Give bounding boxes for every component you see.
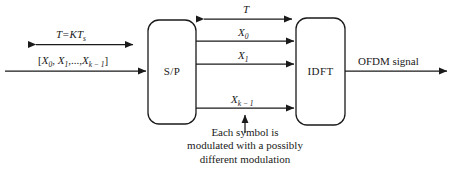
symbol-duration-label: T xyxy=(243,3,249,15)
output-signal-label: OFDM signal xyxy=(358,55,419,67)
period-label-text: T=KT xyxy=(56,28,83,40)
input-ellipsis: ,..., xyxy=(68,54,82,66)
ofdm-block-diagram: S/P IDFT T=KTs [X0, X1,...,Xk − 1] T X0 … xyxy=(0,0,454,172)
input-xk-subscript: k − 1 xyxy=(89,60,105,69)
input-sequence-label: [X0, X1,...,Xk − 1] xyxy=(38,54,108,66)
period-label-subscript: s xyxy=(83,34,86,43)
caption-line-1: Each symbol is xyxy=(155,126,335,139)
caption-line-3: different modulation xyxy=(155,153,335,166)
input-bracket-close: ] xyxy=(105,54,109,66)
subcarrier-label-0: X0 xyxy=(238,26,248,38)
subcarrier-label-k: Xk − 1 xyxy=(231,93,254,105)
subcarrier-0-subscript: 0 xyxy=(245,32,249,41)
subcarrier-k-subscript: k − 1 xyxy=(238,99,254,108)
idft-block-label: IDFT xyxy=(296,65,345,77)
sp-block-label: S/P xyxy=(148,65,196,77)
subcarrier-1-text: X xyxy=(238,49,245,61)
input-xk: X xyxy=(82,54,89,66)
subcarrier-label-1: X1 xyxy=(238,49,248,61)
caption-line-2: modulated with a possibly xyxy=(155,139,335,152)
subcarrier-k-text: X xyxy=(231,93,238,105)
subcarrier-0-text: X xyxy=(238,26,245,38)
caption-block: Each symbol is modulated with a possibly… xyxy=(155,126,335,166)
subcarrier-1-subscript: 1 xyxy=(245,55,249,64)
period-label: T=KTs xyxy=(56,28,86,40)
